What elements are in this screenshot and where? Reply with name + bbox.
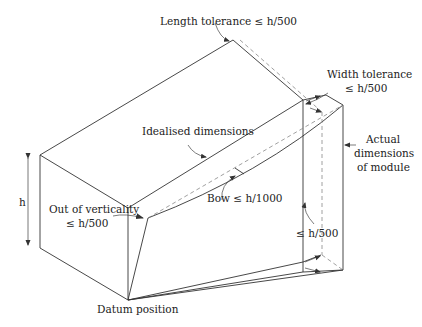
idealised-box: [40, 40, 303, 300]
actual-back-top-right-connector: [303, 95, 326, 100]
bottom-edge-front: [128, 272, 303, 300]
module-tolerance-diagram: h Length tolerance ≤ h/500 Width toleran…: [0, 0, 422, 327]
dashed-bottom-right: [322, 255, 343, 270]
actual-bottom-short: [303, 255, 321, 262]
bow-label: Bow ≤ h/1000: [207, 192, 283, 204]
actual-dimensions-label-line1: Actual: [365, 133, 401, 145]
actual-bottom-mid: [128, 262, 303, 300]
idealised-leader: [188, 145, 206, 157]
width-tolerance-label-line2: ≤ h/500: [345, 82, 387, 94]
height-dimension: h: [19, 158, 28, 245]
bow-indicator-line: [235, 168, 244, 174]
actual-dimensions-label-line2: dimensions: [354, 147, 414, 159]
datum-position-label: Datum position: [97, 303, 179, 315]
base-tolerance-label: ≤ h/500: [296, 227, 338, 239]
actual-top-right: [326, 95, 343, 105]
height-label: h: [19, 196, 26, 208]
out-of-verticality-label-line1: Out of verticality: [49, 203, 139, 215]
actual-dimensions-label-line3: of module: [357, 161, 410, 173]
actual-front-vertical: [128, 218, 148, 300]
width-tolerance-label-line1: Width tolerance: [327, 68, 412, 80]
actual-bottom-front: [128, 270, 343, 300]
idealised-dimensions-label: Idealised dimensions: [142, 125, 254, 137]
base-tolerance-leader: [305, 203, 314, 224]
top-edge-right: [233, 40, 303, 100]
dashed-top-length: [240, 40, 322, 112]
length-tolerance-label: Length tolerance ≤ h/500: [160, 15, 297, 27]
base-arrow-up: [305, 256, 320, 262]
out-of-verticality-label-line2: ≤ h/500: [66, 217, 108, 229]
top-edge-back: [40, 40, 233, 155]
